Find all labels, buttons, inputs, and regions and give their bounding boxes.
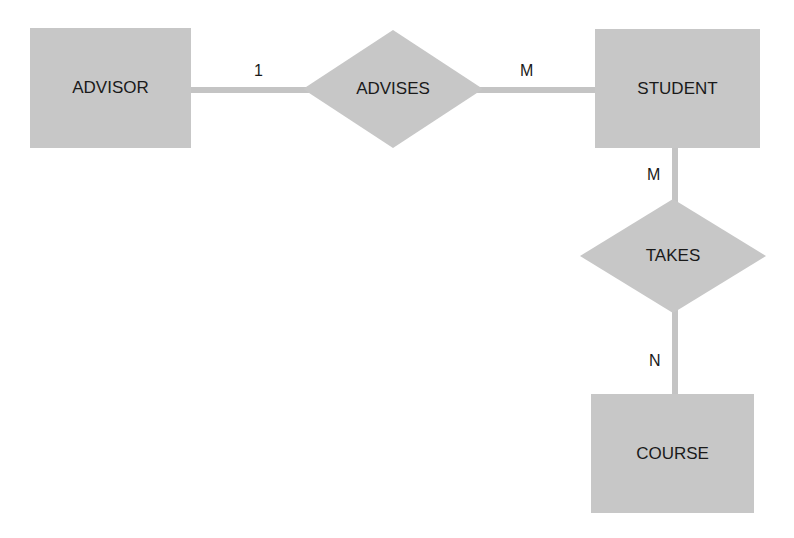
entity-student-label: STUDENT	[637, 79, 717, 99]
entity-advisor-label: ADVISOR	[72, 78, 149, 98]
cardinality-takes-course: N	[649, 352, 661, 370]
takes-course-connector	[672, 310, 678, 396]
relationship-takes[interactable]: TAKES	[580, 199, 766, 313]
advises-student-connector	[475, 87, 597, 93]
advisor-advises-connector	[191, 87, 311, 93]
relationship-advises-label: ADVISES	[356, 79, 430, 99]
entity-student[interactable]: STUDENT	[595, 29, 760, 148]
cardinality-advises-student: M	[520, 62, 533, 80]
cardinality-advisor-advises: 1	[254, 62, 263, 80]
entity-course-label: COURSE	[636, 444, 709, 464]
entity-advisor[interactable]: ADVISOR	[30, 28, 191, 148]
student-takes-connector	[672, 148, 678, 202]
relationship-takes-label: TAKES	[646, 246, 700, 266]
cardinality-student-takes: M	[647, 166, 660, 184]
entity-course[interactable]: COURSE	[591, 394, 754, 513]
relationship-advises[interactable]: ADVISES	[303, 30, 483, 148]
